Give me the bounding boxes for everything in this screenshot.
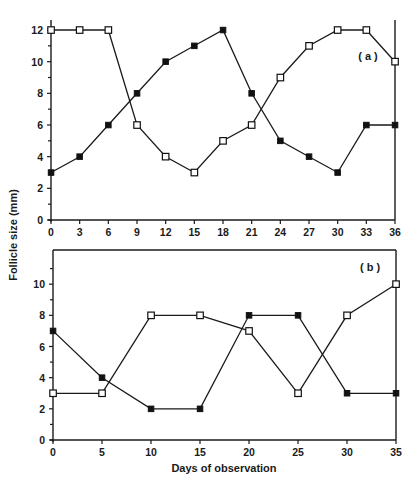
data-point-open: [99, 390, 106, 397]
x-axis-title: Days of observation: [171, 462, 276, 474]
follicle-size-chart: 0369121518212427303336024681012( a ) 051…: [0, 0, 418, 491]
data-point-open: [197, 312, 204, 319]
x-tick-label: 10: [145, 446, 157, 458]
y-tick-label: 4: [37, 151, 43, 163]
data-point-open: [306, 43, 313, 50]
x-tick-label: 12: [160, 226, 172, 238]
data-point-open: [50, 390, 57, 397]
data-point-filled: [335, 170, 341, 176]
data-point-filled: [344, 391, 350, 397]
y-tick-label: 2: [37, 182, 43, 194]
data-point-filled: [77, 154, 83, 160]
x-tick-label: 15: [188, 226, 200, 238]
x-tick-label: 27: [303, 226, 315, 238]
data-point-open: [105, 27, 112, 34]
data-point-open: [191, 169, 198, 176]
data-point-open: [148, 312, 155, 319]
y-tick-label: 8: [39, 309, 45, 321]
y-tick-label: 6: [39, 341, 45, 353]
y-tick-label: 12: [31, 24, 43, 36]
x-tick-label: 20: [243, 446, 255, 458]
x-tick-label: 9: [134, 226, 140, 238]
data-point-open: [277, 74, 284, 81]
x-tick-label: 35: [390, 446, 402, 458]
data-point-open: [162, 153, 169, 160]
data-point-filled: [364, 122, 370, 128]
x-tick-label: 3: [77, 226, 83, 238]
y-tick-label: 0: [37, 214, 43, 226]
y-tick-label: 4: [39, 372, 45, 384]
panel-b: 051015202530350246810( b ): [33, 250, 402, 458]
data-point-filled: [295, 313, 301, 319]
data-point-open: [334, 27, 341, 34]
data-point-open: [295, 390, 302, 397]
x-tick-label: 30: [341, 446, 353, 458]
series-line-open-squares: [51, 30, 395, 173]
data-point-filled: [50, 328, 56, 334]
data-point-open: [248, 122, 255, 129]
data-point-open: [392, 58, 399, 65]
x-tick-label: 21: [246, 226, 258, 238]
data-point-open: [76, 27, 83, 34]
data-point-open: [363, 27, 370, 34]
panel-a: 0369121518212427303336024681012( a ): [31, 20, 401, 238]
panel-label: ( a ): [358, 50, 378, 62]
data-point-open: [134, 122, 141, 129]
data-point-open: [220, 138, 227, 145]
panel-label: ( b ): [360, 261, 380, 273]
data-point-open: [393, 281, 400, 288]
y-tick-label: 10: [31, 56, 43, 68]
data-point-open: [344, 312, 351, 319]
y-axis-title: Follicle size (mm): [7, 189, 19, 281]
x-tick-label: 0: [48, 226, 54, 238]
data-point-filled: [220, 27, 226, 33]
x-tick-label: 25: [292, 446, 304, 458]
series-line-filled-squares: [51, 30, 395, 173]
data-point-filled: [148, 406, 154, 412]
data-point-filled: [278, 138, 284, 144]
data-point-filled: [48, 170, 54, 176]
x-tick-label: 33: [360, 226, 372, 238]
x-tick-label: 30: [332, 226, 344, 238]
x-tick-label: 24: [274, 226, 286, 238]
x-tick-label: 18: [217, 226, 229, 238]
data-point-filled: [99, 375, 105, 381]
x-tick-label: 5: [99, 446, 105, 458]
y-tick-label: 2: [39, 403, 45, 415]
data-point-filled: [249, 91, 255, 97]
y-tick-label: 6: [37, 119, 43, 131]
data-point-filled: [163, 59, 169, 65]
data-point-filled: [192, 43, 198, 49]
data-point-filled: [106, 122, 112, 128]
data-point-open: [48, 27, 55, 34]
x-tick-label: 15: [194, 446, 206, 458]
data-point-filled: [306, 154, 312, 160]
x-tick-label: 6: [105, 226, 111, 238]
data-point-open: [246, 328, 253, 335]
data-point-filled: [134, 91, 140, 97]
data-point-filled: [197, 406, 203, 412]
y-tick-label: 10: [33, 278, 45, 290]
data-point-filled: [393, 391, 399, 397]
y-tick-label: 0: [39, 434, 45, 446]
x-tick-label: 0: [50, 446, 56, 458]
y-tick-label: 8: [37, 87, 43, 99]
data-point-filled: [246, 313, 252, 319]
data-point-filled: [392, 122, 398, 128]
x-tick-label: 36: [389, 226, 401, 238]
